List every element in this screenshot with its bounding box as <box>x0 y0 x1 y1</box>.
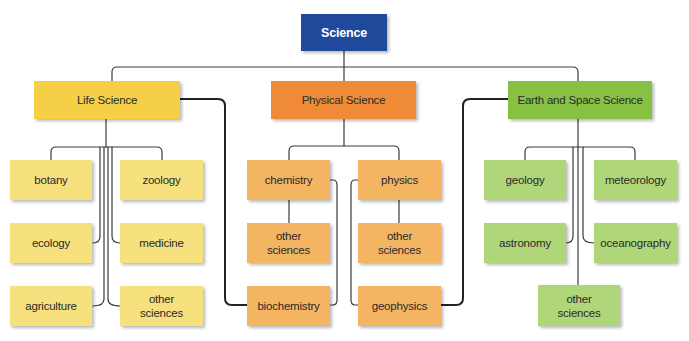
node-meteorology: meteorology <box>594 160 677 200</box>
node-geology: geology <box>484 160 566 200</box>
science-hierarchy-diagram: Science Life Science Physical Science Ea… <box>0 0 689 341</box>
node-life-science: Life Science <box>34 81 180 119</box>
node-life-other-sciences: other sciences <box>120 286 203 326</box>
node-physics: physics <box>358 160 441 200</box>
node-earth-other-sciences: other sciences <box>538 285 620 326</box>
node-astronomy: astronomy <box>484 223 566 263</box>
node-zoology: zoology <box>120 160 203 200</box>
node-agriculture: agriculture <box>10 286 92 326</box>
node-science: Science <box>301 14 387 51</box>
node-physical-science: Physical Science <box>271 81 416 119</box>
node-chemistry: chemistry <box>247 160 330 200</box>
node-chemistry-other-sciences: other sciences <box>247 223 330 263</box>
node-geophysics: geophysics <box>358 286 441 326</box>
node-oceanography: oceanography <box>594 223 677 263</box>
node-biochemistry: biochemistry <box>247 286 330 326</box>
node-physics-other-sciences: other sciences <box>358 223 441 263</box>
node-botany: botany <box>10 160 92 200</box>
node-earth-and-space-science: Earth and Space Science <box>508 81 652 119</box>
node-ecology: ecology <box>10 223 92 263</box>
node-medicine: medicine <box>120 223 203 263</box>
